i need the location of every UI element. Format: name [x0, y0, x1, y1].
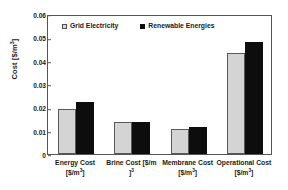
y-axis-tick-label: 0.06: [33, 13, 48, 20]
bar-renewable-energies[interactable]: [132, 122, 150, 154]
x-axis-label-line1: Membrane Cost: [162, 159, 213, 166]
plot-area: 00.010.020.030.040.050.06 Grid Electrici…: [47, 15, 272, 155]
bar-grid-electricity[interactable]: [171, 129, 189, 154]
x-axis-label-line2: ]3: [103, 168, 159, 178]
x-axis-label-line1: Operational Cost: [216, 159, 271, 166]
y-axis-tick-label: 0.04: [33, 59, 48, 66]
bar-grid-electricity[interactable]: [227, 53, 245, 154]
y-axis-tick: 0.06: [33, 13, 48, 20]
y-axis-tick-label: 0.01: [33, 129, 48, 136]
bar-renewable-energies[interactable]: [245, 42, 263, 154]
bar-grid-electricity[interactable]: [58, 109, 76, 154]
bar-chart-figure: Cost [$/m3] 00.010.020.030.040.050.06 Gr…: [0, 0, 288, 190]
bar-group-container: [48, 16, 271, 154]
bar-grid-electricity[interactable]: [114, 122, 132, 154]
y-axis-tick: 0.03: [33, 83, 48, 90]
y-axis-tick-label: 0.02: [33, 106, 48, 113]
x-axis-label-line2: [$/m3]: [160, 168, 216, 178]
x-axis-label-group: Energy Cost[$/m3]Brine Cost [$/m]3Membra…: [47, 158, 272, 188]
y-axis-tick-label: 0.05: [33, 36, 48, 43]
bar-group: [217, 16, 273, 154]
x-axis-category-label: Brine Cost [$/m]3: [103, 158, 159, 177]
y-axis-tick-mark: [48, 156, 51, 157]
y-axis-tick: 0.01: [33, 129, 48, 136]
x-axis-category-label: Operational Cost[$/m3]: [216, 158, 272, 177]
x-axis-label-line1: Brine Cost [$/m: [106, 159, 156, 166]
x-axis-category-label: Energy Cost[$/m3]: [47, 158, 103, 177]
x-axis-label-line1: Energy Cost: [55, 159, 95, 166]
x-axis-label-line2: [$/m3]: [47, 168, 103, 178]
bar-renewable-energies[interactable]: [189, 127, 207, 154]
bar-group: [48, 16, 104, 154]
y-axis-title: Cost [$/m3]: [10, 4, 24, 114]
x-axis-category-label: Membrane Cost[$/m3]: [160, 158, 216, 177]
bar-renewable-energies[interactable]: [76, 102, 94, 154]
y-axis-tick: 0.02: [33, 106, 48, 113]
y-axis-tick-label: 0.03: [33, 83, 48, 90]
bar-group: [161, 16, 217, 154]
x-axis-label-line2: [$/m3]: [216, 168, 272, 178]
y-axis-tick: 0.05: [33, 36, 48, 43]
bar-group: [104, 16, 160, 154]
y-axis-tick: 0.04: [33, 59, 48, 66]
